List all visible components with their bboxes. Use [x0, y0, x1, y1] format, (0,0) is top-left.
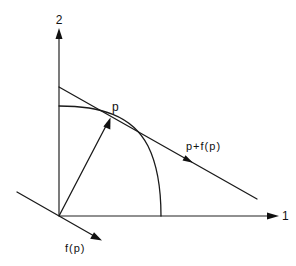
- tangent-line-label: p+f(p): [186, 140, 221, 152]
- vector-f-of-p-label: f(p): [65, 242, 86, 254]
- point-p-label: p: [112, 100, 119, 114]
- vertical-axis-label: 2: [56, 13, 63, 27]
- horizontal-axis: 1: [59, 209, 289, 223]
- position-vector: p: [59, 100, 119, 216]
- horizontal-axis-arrowhead-icon: [267, 213, 279, 220]
- tangent-line-segment: [59, 87, 257, 199]
- position-vector-line: [59, 124, 107, 216]
- vector-f-of-p-line: [17, 192, 95, 237]
- vertical-axis: 2: [56, 13, 63, 216]
- tangent-line: p+f(p): [59, 87, 257, 199]
- vector-f-of-p-arrowhead-icon: [90, 232, 102, 240]
- horizontal-axis-label: 1: [282, 209, 289, 223]
- vertical-axis-arrowhead-icon: [56, 28, 63, 39]
- tangent-direction-arrowhead-icon: [183, 155, 194, 163]
- diagram: 2 1 p+f(p) p f(p): [0, 0, 296, 266]
